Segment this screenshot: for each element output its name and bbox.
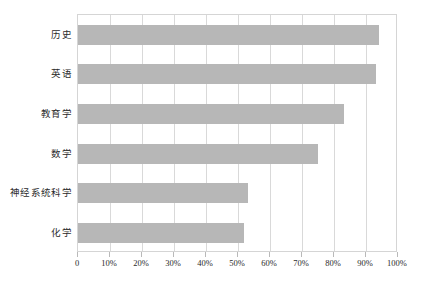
y-axis-labels: 历史英语教育学数学神经系统科学化学 — [0, 14, 72, 252]
bar-row — [78, 213, 396, 253]
bar — [78, 64, 376, 84]
x-axis-tick — [205, 252, 206, 257]
x-axis-tick-label: 10% — [101, 258, 117, 268]
bar-row — [78, 134, 396, 174]
x-axis-tick-label: 90% — [357, 258, 373, 268]
bar-row — [78, 94, 396, 134]
bar-row — [78, 15, 396, 55]
x-axis-tick-label: 50% — [229, 258, 245, 268]
bar-row — [78, 55, 396, 95]
x-axis: 010%20%30%40%50%60%70%80%90%100% — [77, 252, 397, 282]
x-axis-tick-label: 70% — [293, 258, 309, 268]
x-axis-tick-label: 30% — [165, 258, 181, 268]
x-axis-tick — [333, 252, 334, 257]
bar — [78, 104, 344, 124]
x-axis-tick-label: 40% — [197, 258, 213, 268]
x-axis-tick — [77, 252, 78, 257]
y-axis-tick-label: 教育学 — [0, 93, 72, 133]
bar-rows — [78, 15, 396, 251]
x-axis-tick — [269, 252, 270, 257]
x-axis-tick-label: 100% — [387, 258, 407, 268]
x-axis-tick-label: 60% — [261, 258, 277, 268]
y-axis-tick-label: 数学 — [0, 133, 72, 173]
bar — [78, 183, 248, 203]
x-axis-tick-label: 0 — [75, 258, 79, 268]
bar-row — [78, 174, 396, 214]
x-axis-tick — [237, 252, 238, 257]
x-axis-tick — [397, 252, 398, 257]
x-axis-tick-label: 20% — [133, 258, 149, 268]
x-axis-tick — [173, 252, 174, 257]
y-axis-tick-label: 英语 — [0, 54, 72, 94]
x-axis-tick-label: 80% — [325, 258, 341, 268]
y-axis-tick-label: 历史 — [0, 14, 72, 54]
bar — [78, 223, 244, 243]
y-axis-tick-label: 化学 — [0, 212, 72, 252]
y-axis-tick-label: 神经系统科学 — [0, 173, 72, 213]
x-axis-tick — [109, 252, 110, 257]
x-axis-tick — [141, 252, 142, 257]
x-axis-tick — [301, 252, 302, 257]
x-axis-tick — [365, 252, 366, 257]
plot-area — [77, 14, 397, 252]
bar-chart: 历史英语教育学数学神经系统科学化学 010%20%30%40%50%60%70%… — [0, 0, 427, 282]
bar — [78, 144, 318, 164]
bar — [78, 25, 379, 45]
